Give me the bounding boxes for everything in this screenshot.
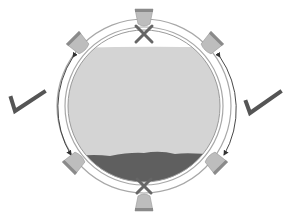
- mount-top: [135, 9, 153, 26]
- mount-bottom: [135, 194, 153, 211]
- right-check-icon: [246, 92, 280, 113]
- left-check-icon: [11, 92, 44, 111]
- pipe-mounting-diagram: Pipe cross-section mounting positions: [0, 0, 289, 220]
